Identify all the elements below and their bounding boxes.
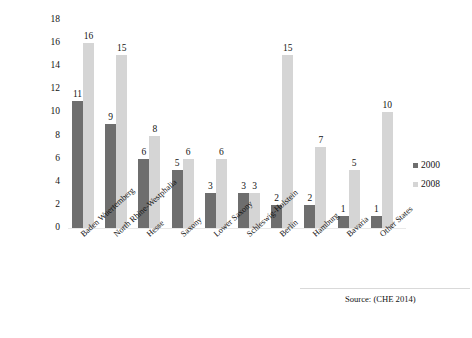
source-note: Source: (CHE 2014) bbox=[345, 295, 416, 304]
chart-legend: 20002008 bbox=[413, 155, 440, 193]
bar-group: 1116 bbox=[72, 20, 96, 228]
bar-group: 56 bbox=[172, 20, 196, 228]
legend-item[interactable]: 2000 bbox=[413, 155, 440, 168]
bar-value-label: 5 bbox=[348, 159, 361, 169]
legend-swatch-icon bbox=[413, 182, 418, 187]
bar-value-label: 15 bbox=[115, 44, 128, 54]
bar-2008 bbox=[382, 112, 393, 228]
bar-value-label: 8 bbox=[148, 125, 161, 135]
bar-group: 110 bbox=[371, 20, 395, 228]
bar-2000 bbox=[205, 193, 216, 228]
bar-2000 bbox=[371, 216, 382, 228]
bar-value-label: 16 bbox=[82, 32, 95, 42]
bar-2008 bbox=[183, 159, 194, 228]
bar-2008 bbox=[315, 147, 326, 228]
legend-swatch-icon bbox=[413, 163, 418, 168]
bar-value-label: 15 bbox=[281, 44, 294, 54]
bar-2008 bbox=[83, 43, 94, 228]
bar-group: 33 bbox=[238, 20, 262, 228]
bar-group: 36 bbox=[205, 20, 229, 228]
bar-2000 bbox=[304, 205, 315, 228]
legend-item[interactable]: 2008 bbox=[413, 174, 440, 187]
legend-label: 2008 bbox=[421, 180, 440, 190]
bar-chart: 024681012141618 111691568563633215271511… bbox=[0, 0, 472, 338]
bar-2008 bbox=[149, 136, 160, 228]
legend-label: 2000 bbox=[421, 161, 440, 171]
bar-group: 27 bbox=[304, 20, 328, 228]
bar-group: 15 bbox=[338, 20, 362, 228]
bar-2008 bbox=[216, 159, 227, 228]
bar-value-label: 6 bbox=[182, 148, 195, 158]
bar-2000 bbox=[72, 101, 83, 228]
footer-divider bbox=[300, 288, 470, 289]
bar-value-label: 3 bbox=[248, 182, 261, 192]
bar-value-label: 7 bbox=[314, 136, 327, 146]
bar-value-label: 10 bbox=[381, 101, 394, 111]
bar-value-label: 6 bbox=[215, 148, 228, 158]
